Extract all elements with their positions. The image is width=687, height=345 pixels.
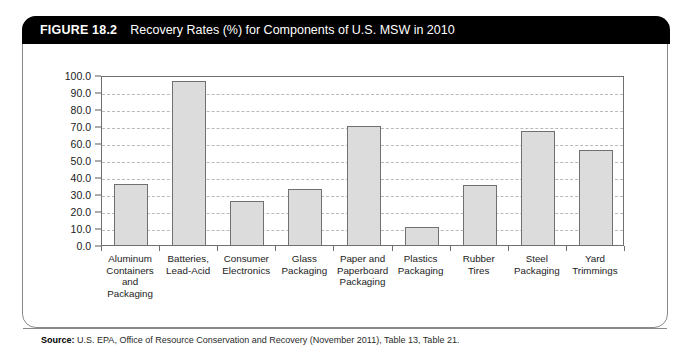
y-tick-label: 0.0: [76, 240, 91, 252]
x-axis-label-line: Plastics: [392, 253, 450, 265]
figure-title: Recovery Rates (%) for Components of U.S…: [130, 23, 454, 37]
x-tick: [333, 246, 334, 251]
y-tick-label: 90.0: [71, 87, 91, 99]
x-axis-label-line: Packaging: [333, 276, 391, 288]
bar-8: [579, 150, 613, 245]
x-axis-label: RubberTires: [450, 253, 508, 276]
x-axis-label-line: and: [101, 276, 159, 288]
x-tick: [624, 246, 625, 251]
bar-6: [463, 185, 497, 245]
x-axis-label-line: Glass: [275, 253, 333, 265]
x-axis-label-line: Yard: [566, 253, 624, 265]
x-tick: [159, 246, 160, 251]
figure-number-label: FIGURE 18.2: [40, 23, 117, 37]
figure-card: FIGURE 18.2 Recovery Rates (%) for Compo…: [22, 16, 668, 328]
x-axis-label-line: Steel: [508, 253, 566, 265]
x-tick: [392, 246, 393, 251]
x-axis-label-line: Lead-Acid: [159, 265, 217, 277]
bar-7: [521, 131, 555, 245]
x-axis-label-line: Packaging: [508, 265, 566, 277]
x-axis-label-line: Batteries,: [159, 253, 217, 265]
y-tick-label: 50.0: [71, 155, 91, 167]
x-axis-label-line: Packaging: [101, 288, 159, 300]
bar-3: [288, 189, 322, 245]
x-axis-label: YardTrimmings: [566, 253, 624, 276]
x-axis-label-line: Packaging: [392, 265, 450, 277]
bar-5: [405, 227, 439, 245]
bar-4: [347, 126, 381, 245]
x-axis-label-line: Rubber: [450, 253, 508, 265]
plot-area: [101, 76, 624, 246]
figure-header: FIGURE 18.2 Recovery Rates (%) for Compo…: [22, 16, 670, 44]
x-tick: [275, 246, 276, 251]
y-tick-label: 20.0: [71, 206, 91, 218]
x-axis-label: Batteries,Lead-Acid: [159, 253, 217, 276]
x-axis-label: SteelPackaging: [508, 253, 566, 276]
y-axis: 0.010.020.030.040.050.060.070.080.090.01…: [23, 76, 101, 246]
bars-layer: [102, 77, 623, 245]
x-axis-label: ConsumerElectronics: [217, 253, 275, 276]
chart-body: 0.010.020.030.040.050.060.070.080.090.01…: [23, 45, 667, 299]
y-tick-label: 60.0: [71, 138, 91, 150]
bar-0: [114, 184, 148, 245]
y-tick-label: 40.0: [71, 172, 91, 184]
y-tick-label: 30.0: [71, 189, 91, 201]
x-axis-label: PlasticsPackaging: [392, 253, 450, 276]
x-axis-label: AluminumContainersandPackaging: [101, 253, 159, 299]
source-label: Source:: [41, 335, 75, 345]
x-axis-labels: AluminumContainersandPackagingBatteries,…: [101, 253, 624, 299]
x-axis-label-line: Trimmings: [566, 265, 624, 277]
bar-1: [172, 81, 206, 245]
source-divider: [23, 328, 667, 329]
x-tick: [217, 246, 218, 251]
x-axis-label-line: Containers: [101, 265, 159, 277]
bar-2: [230, 201, 264, 245]
x-axis-label-line: Electronics: [217, 265, 275, 277]
x-tick: [508, 246, 509, 251]
x-axis-label: Paper andPaperboardPackaging: [333, 253, 391, 288]
x-axis-label-line: Paper and: [333, 253, 391, 265]
x-axis-label-line: Consumer: [217, 253, 275, 265]
x-tick: [101, 246, 102, 251]
y-tick-label: 100.0: [65, 70, 91, 82]
x-tick: [566, 246, 567, 251]
source-text: U.S. EPA, Office of Resource Conservatio…: [77, 335, 459, 345]
y-tick-label: 10.0: [71, 223, 91, 235]
y-tick-label: 80.0: [71, 104, 91, 116]
x-axis-label: GlassPackaging: [275, 253, 333, 276]
x-axis-label-line: Packaging: [275, 265, 333, 277]
y-tick-label: 70.0: [71, 121, 91, 133]
x-axis-label-line: Aluminum: [101, 253, 159, 265]
x-axis-ticks: [101, 246, 624, 251]
x-tick: [450, 246, 451, 251]
x-axis-label-line: Paperboard: [333, 265, 391, 277]
source-row: Source: U.S. EPA, Office of Resource Con…: [41, 334, 653, 345]
x-axis-label-line: Tires: [450, 265, 508, 277]
